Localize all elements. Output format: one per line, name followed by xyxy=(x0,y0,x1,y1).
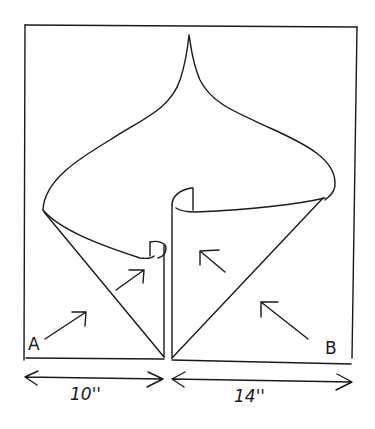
arrow-b-inner-icon xyxy=(200,250,225,272)
right-curl xyxy=(172,188,193,210)
arrow-a-outer-icon xyxy=(45,312,86,339)
right-rim xyxy=(176,198,325,212)
petal-outline xyxy=(43,35,335,210)
label-a: A xyxy=(28,334,40,354)
left-cone-edge xyxy=(44,212,164,357)
dimension-right-label: 14'' xyxy=(234,386,265,406)
frame-baseline xyxy=(26,358,351,364)
arrow-b-outer-icon xyxy=(261,302,308,339)
right-cone-edge xyxy=(172,198,323,358)
frame-top-edge xyxy=(25,25,357,27)
left-rim xyxy=(43,210,154,258)
frame-right-edge xyxy=(352,27,357,358)
label-b: B xyxy=(325,338,337,358)
frame-left-edge xyxy=(24,25,25,360)
arrow-a-inner-icon xyxy=(116,270,144,290)
frame xyxy=(24,25,357,364)
diagram-canvas: A B 10'' 14'' xyxy=(0,0,375,429)
dimension-left-label: 10'' xyxy=(70,384,101,404)
